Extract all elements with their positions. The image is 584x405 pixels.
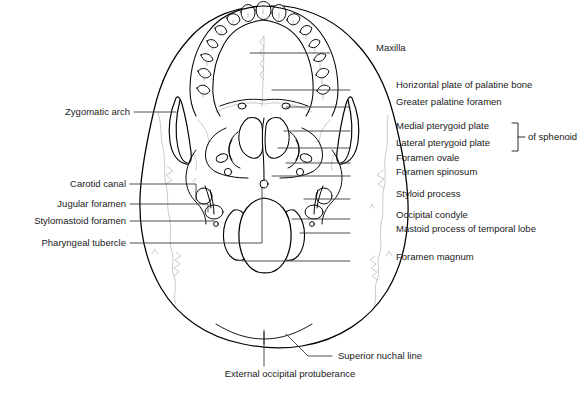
label-mastoid-process-of-temporal-lobe: Mastoid process of temporal lobe	[396, 223, 536, 235]
label-maxilla: Maxilla	[376, 42, 406, 54]
label-lateral-pterygoid-plate: Lateral pterygoid plate	[396, 137, 490, 149]
label-superior-nuchal-line: Superior nuchal line	[338, 350, 422, 362]
label-external-occipital-protuberance: External occipital protuberance	[216, 368, 364, 380]
label-foramen-spinosum: Foramen spinosum	[396, 166, 477, 178]
label-occipital-condyle: Occipital condyle	[396, 209, 468, 221]
label-stylomastoid-foramen: Stylomastoid foramen	[0, 215, 126, 227]
label-jugular-foramen: Jugular foramen	[0, 198, 126, 210]
label-greater-palatine-foramen: Greater palatine foramen	[396, 96, 502, 108]
cranium-outline	[140, 6, 408, 348]
label-carotid-canal: Carotid canal	[0, 178, 126, 190]
skull-inferior-view-figure: Maxilla Horizontal plate of palatine bon…	[0, 0, 584, 405]
label-horizontal-plate-of-palatine-bone: Horizontal plate of palatine bone	[396, 79, 532, 91]
sphenoid-bracket	[512, 123, 525, 151]
label-foramen-ovale: Foramen ovale	[396, 152, 459, 164]
pharyngeal-tubercle	[260, 180, 268, 188]
foramen-magnum	[239, 198, 291, 273]
label-foramen-magnum: Foramen magnum	[396, 251, 474, 263]
label-of-sphenoid: of sphenoid	[528, 131, 577, 143]
label-zygomatic-arch: Zygomatic arch	[0, 106, 130, 118]
label-medial-pterygoid-plate: Medial pterygoid plate	[396, 120, 489, 132]
label-pharyngeal-tubercle: Pharyngeal tubercle	[0, 237, 126, 249]
label-styloid-process: Styloid process	[396, 188, 460, 200]
